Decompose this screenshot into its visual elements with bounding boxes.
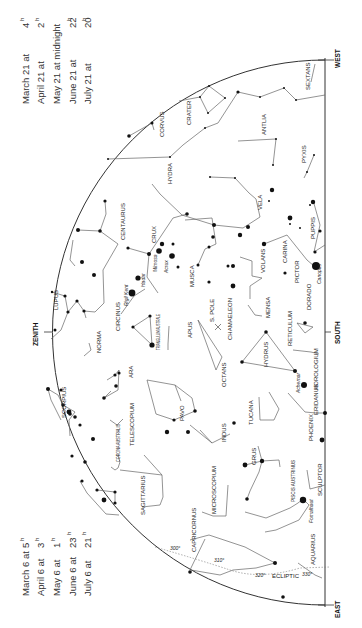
label-hydra: HYDRA [167, 163, 173, 184]
schedule-bottom-row-2-unit: h [50, 538, 56, 541]
label-lupus: LUPUS [53, 290, 59, 310]
label-vela: VELA [257, 195, 263, 210]
schedule-bottom-row-1-date: April 6 at [35, 558, 46, 596]
label-scorpius: SCORPIUS [61, 387, 67, 418]
schedule-bottom-row-0-unit: h [19, 538, 25, 541]
schedule-top: March 21 at April 21 at May 21 at midnig… [19, 17, 93, 104]
label-pyxis: PYXIS [301, 145, 307, 163]
schedule-bottom-row-3-time: 23 [67, 537, 78, 548]
label-indus: INDUS [221, 423, 227, 442]
schedule-bottom-row-0-time: 5 [20, 543, 31, 548]
label-centaurus: CENTAURUS [120, 203, 126, 240]
label-hydrus: HYDRUS [263, 342, 269, 367]
schedule-bottom-row-1-time: 3 [35, 543, 46, 548]
star-mimosa: Mimosa [152, 254, 158, 272]
label-ara: ARA [128, 366, 134, 378]
schedule-bottom-row-0-date: March 6 at [20, 551, 31, 596]
schedule-bottom-row-1-unit: h [34, 538, 40, 541]
label-grus: GRUS [251, 448, 257, 465]
schedule-bottom-row-3-date: June 6 at [67, 557, 78, 596]
label-eridanus: ERIDANUS [313, 384, 319, 415]
ecliptic-330: 330° [302, 571, 312, 577]
ecliptic-310: 310° [214, 557, 224, 563]
label-phoenix: PHOENIX [308, 414, 314, 441]
schedule-top-row-4-date: July 21 at [82, 63, 93, 104]
label-chamaeleon: CHAMAELEON [227, 298, 233, 340]
schedule-top-row-0-date: March 21 at [20, 53, 31, 104]
zenith-label: ZENITH [32, 322, 39, 346]
label-tucana: TUCANA [248, 400, 254, 425]
east-label: EAST [334, 601, 341, 618]
label-horologium: HOROLOGIUM [313, 348, 319, 390]
label-musca: MUSCA [189, 265, 195, 287]
schedule-bottom-row-2-time: 1 [51, 543, 62, 548]
label-telescopium: TELESCOPIUM [129, 403, 135, 446]
label-pictor: PICTOR [294, 260, 300, 283]
schedule-top-row-1-unit: h [34, 18, 40, 21]
constellation-lines [48, 64, 325, 578]
south-pole-marker [215, 324, 221, 330]
star-chart: WEST SOUTH EAST ZENITH March 21 at April… [0, 0, 362, 628]
schedule-top-row-3-unit: h [66, 18, 72, 21]
schedule-bottom-row-4-date: July 6 at [82, 560, 93, 596]
label-mensa: MENSA [265, 297, 271, 318]
west-label: WEST [334, 49, 341, 68]
schedule-top-row-4-unit: h [81, 18, 87, 21]
ecliptic-label: ECLIPTIC [272, 573, 300, 579]
label-capricornus: CAPRICORNUS [191, 508, 197, 552]
label-pavo: PAVO [179, 405, 185, 421]
label-triangulum-australe-1: TRIANGULUM AUSTRALE [155, 314, 161, 350]
star-achernar: Achernar [295, 372, 301, 394]
label-microscopium: MICROSCOPIUM [211, 466, 217, 514]
schedule-bottom: March 6 at April 6 at May 6 at June 6 at… [19, 532, 93, 596]
ecliptic-320: 320° [255, 572, 265, 578]
schedule-top-row-0-unit: h [19, 18, 25, 21]
constellation-labels: SEXTANS CRATER CORVUS ANTLIA HYDRA PYXIS… [53, 62, 323, 565]
label-puppis: PUPPIS [310, 217, 316, 239]
label-sextans: SEXTANS [305, 62, 311, 90]
schedule-top-row-2-date: May 21 at midnight [51, 23, 62, 104]
label-antlia: ANTLIA [261, 114, 267, 135]
schedule-bottom-row-2-date: May 6 at [51, 559, 62, 596]
label-piscis-austrinus: PISCIS AUSTRINUS [290, 460, 296, 502]
label-aquarius: AQUARIUS [310, 534, 316, 565]
star-fomalhaut: Fomalhaut [308, 499, 314, 523]
schedule-top-row-3-date: June 21 at [67, 59, 78, 104]
label-sculptor: SCULPTOR [317, 463, 323, 496]
schedule-bottom-row-4-unit: h [81, 532, 87, 535]
stars [46, 85, 327, 599]
label-corona-australis: CORONA AUSTRALIS [115, 424, 121, 462]
star-acrux: Acrux [163, 260, 169, 274]
schedule-top-row-0-time: 4 [20, 23, 31, 28]
schedule-top-row-1-time: 2 [35, 23, 46, 28]
label-volans: VOLANS [260, 249, 266, 273]
schedule-bottom-row-3-unit: h [66, 532, 72, 535]
ecliptic-300: 300° [170, 545, 180, 551]
south-label: SOUTH [334, 321, 341, 344]
star-hadar: Hadar [140, 273, 146, 287]
label-carina: CARINA [282, 240, 288, 263]
label-dorado: DORADO [306, 283, 312, 310]
schedule-bottom-row-4-time: 21 [82, 537, 93, 548]
star-canopus: Canopus [316, 263, 322, 284]
label-octans: OCTANS [221, 362, 227, 387]
star-rigil-kent: Rigil Kent [123, 284, 129, 306]
label-crux: CRUX [151, 226, 157, 243]
label-corvus: CORVUS [159, 111, 165, 137]
schedule-top-row-1-date: April 21 at [35, 61, 46, 104]
label-crater: CRATER [186, 100, 192, 125]
label-reticulum: RETICULUM [287, 311, 293, 346]
label-norma: NORMA [96, 331, 102, 353]
label-circinus: CIRCINUS [115, 302, 121, 331]
label-apus: APUS [187, 322, 193, 338]
south-pole-label: S. POLE [209, 299, 215, 322]
label-sagittarius: SAGITTARIUS [140, 475, 146, 515]
